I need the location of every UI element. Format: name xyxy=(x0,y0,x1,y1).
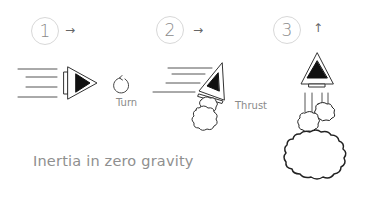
step-2-badge: 2 xyxy=(156,16,184,44)
diagram-title: Inertia in zero gravity xyxy=(33,153,194,169)
arrow-right-icon: → xyxy=(65,24,75,36)
arrow-right-icon: → xyxy=(193,24,203,36)
ship-icon-step1 xyxy=(64,67,97,99)
thrust-label: Thrust xyxy=(235,100,267,111)
exhaust-clouds-step3 xyxy=(284,103,346,180)
step-1-badge: 1 xyxy=(31,17,59,45)
rotate-icon xyxy=(114,76,129,93)
arrow-up-icon: ↑ xyxy=(313,22,323,34)
exhaust-clouds-step2 xyxy=(192,97,218,130)
motion-lines-step1 xyxy=(18,69,57,97)
step-3-badge: 3 xyxy=(273,16,301,44)
diagram-stage: 1 → 2 → 3 ↑ Turn Thrust Inertia in zero … xyxy=(0,0,367,197)
ship-icon-step3 xyxy=(301,53,333,87)
turn-label: Turn xyxy=(116,97,137,108)
